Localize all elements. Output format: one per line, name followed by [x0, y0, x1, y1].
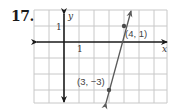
- grid: [34, 10, 167, 103]
- x-axis-label: x: [162, 44, 167, 54]
- point-label-4-1: (4, 1): [125, 28, 147, 39]
- y-tick-label: 1: [56, 22, 62, 32]
- y-axis-label: y: [67, 11, 74, 21]
- point-3-neg3: [107, 88, 111, 92]
- coordinate-graph: y x 1 1 (4, 1) (3, −3): [0, 0, 173, 110]
- x-tick-label: 1: [77, 44, 83, 54]
- point-label-3-neg3: (3, −3): [77, 76, 105, 87]
